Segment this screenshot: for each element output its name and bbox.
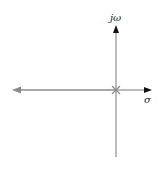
real-axis-arrow-icon	[144, 87, 152, 93]
locus-arrow-icon	[12, 87, 21, 94]
s-plane-diagram: jω σ	[0, 0, 163, 170]
imaginary-axis-label: jω	[108, 12, 121, 23]
real-axis-label: σ	[144, 94, 152, 105]
imaginary-axis-arrow-icon	[113, 25, 119, 33]
